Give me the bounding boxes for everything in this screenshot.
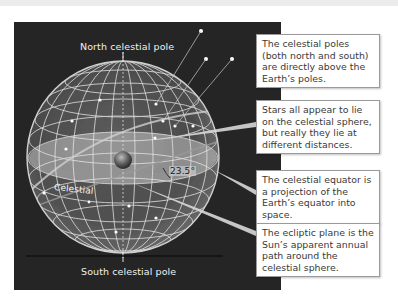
callout-celestial-poles: The celestial poles (both north and sout…	[256, 34, 380, 88]
callout-ecliptic-plane: The ecliptic plane is the Sun’s apparent…	[256, 223, 380, 277]
callout-stars: Stars all appear to lie on the celestial…	[256, 100, 380, 154]
pointer-equator	[214, 170, 256, 195]
earth-icon	[114, 151, 132, 169]
north-celestial-pole-label: North celestial pole	[80, 41, 174, 52]
angle-label: 23.5°	[169, 166, 196, 176]
south-celestial-pole-label: South celestial pole	[81, 266, 176, 277]
callout-celestial-equator: The celestial equator is a projection of…	[256, 170, 380, 224]
